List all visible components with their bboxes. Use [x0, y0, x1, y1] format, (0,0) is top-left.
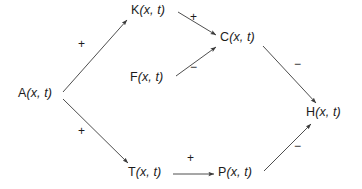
node-a-args: (x, t) [26, 86, 52, 100]
node-p: P(x, t) [218, 166, 252, 179]
node-c-args: (x, t) [229, 30, 255, 44]
edge-a-to-t [63, 99, 128, 163]
node-k-args: (x, t) [139, 3, 165, 17]
diagram-edges-layer [0, 0, 362, 189]
node-c: C(x, t) [220, 31, 255, 44]
node-c-base: C [220, 30, 229, 44]
node-t-base: T [128, 165, 136, 179]
node-f: F(x, t) [130, 71, 163, 84]
node-h: H(x, t) [306, 106, 341, 119]
node-p-args: (x, t) [226, 165, 252, 179]
edge-sign-k-to-c: + [190, 11, 197, 23]
edge-sign-f-to-c: − [190, 61, 197, 73]
edge-a-to-k [63, 20, 127, 92]
node-f-base: F [130, 70, 138, 84]
node-f-args: (x, t) [138, 70, 164, 84]
node-h-base: H [306, 105, 315, 119]
edge-sign-p-to-h: − [294, 140, 301, 152]
node-a: A(x, t) [18, 87, 52, 100]
edge-c-to-h [263, 46, 316, 103]
edge-sign-a-to-k: + [78, 38, 85, 50]
edge-sign-c-to-h: − [294, 58, 301, 70]
diagram-canvas: A(x, t) K(x, t) C(x, t) F(x, t) H(x, t) … [0, 0, 362, 189]
node-t: T(x, t) [128, 166, 161, 179]
node-k: K(x, t) [131, 4, 165, 17]
edge-sign-t-to-p: + [187, 152, 194, 164]
edge-p-to-h [264, 124, 311, 171]
edge-sign-a-to-t: + [78, 125, 85, 137]
node-t-args: (x, t) [136, 165, 162, 179]
node-h-args: (x, t) [315, 105, 341, 119]
